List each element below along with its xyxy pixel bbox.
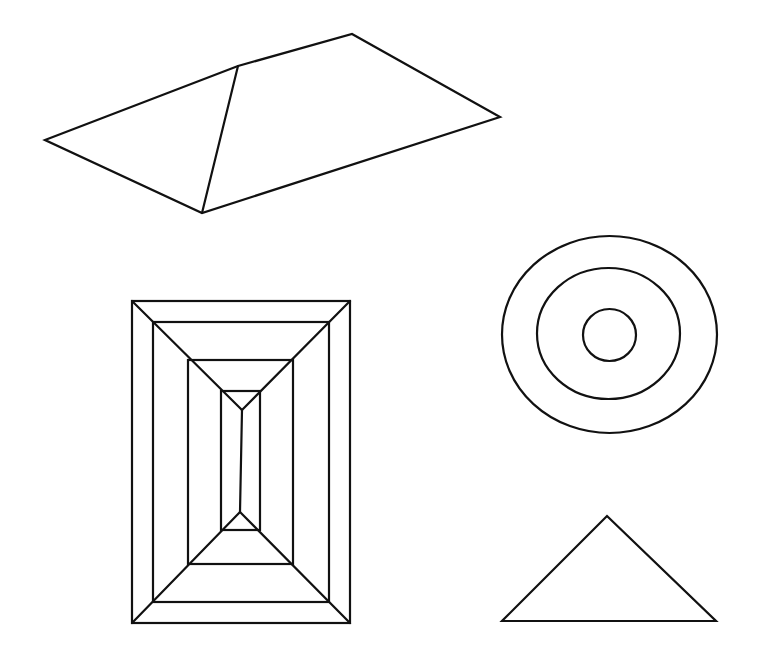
- diagram-canvas: [0, 0, 758, 663]
- background: [0, 0, 758, 663]
